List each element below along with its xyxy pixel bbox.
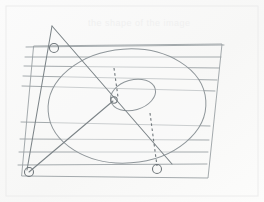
figure-root: the shape of the image [0, 0, 264, 202]
faded-caption: the shape of the image [88, 18, 204, 34]
